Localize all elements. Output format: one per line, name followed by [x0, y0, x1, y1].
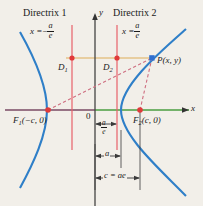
hyperbola-directrix-figure: Directrix 1 x =−ae Directrix 2 x =ae y x… [0, 0, 203, 206]
directrix-2-title: Directrix 2 [113, 8, 157, 18]
point-label-d1: D1 [58, 63, 68, 73]
measure-a-over-e-fraction: ae [101, 119, 107, 135]
point-label-f1: F1(−c, 0) [13, 116, 47, 126]
point-marker-d1 [69, 55, 74, 60]
point-marker-p [149, 55, 154, 60]
measure-a-over-e-denominator: e [101, 128, 107, 136]
directrix-2-fraction: ae [134, 22, 140, 40]
directrix-1-denominator: e [47, 32, 53, 41]
point-marker-d2 [114, 55, 119, 60]
measure-label-a-over-e: ae [101, 119, 107, 135]
measure-label-a: a [104, 149, 110, 158]
y-axis-arrowhead [92, 13, 98, 20]
origin-label: 0 [86, 112, 91, 121]
point-label-d2-subscript: 2 [110, 66, 113, 73]
x-axis-label: x [191, 104, 195, 113]
measure-a-arrow-left [95, 154, 101, 158]
directrix-1-equation: x =−ae [30, 22, 54, 40]
directrix-2-equation: x =ae [122, 22, 140, 40]
measure-c-arrow-left [95, 176, 101, 180]
directrix-1-title: Directrix 1 [23, 8, 67, 18]
point-label-f2-coords: (c, 0) [142, 115, 161, 125]
directrix-2-denominator: e [134, 32, 140, 41]
measure-c-arrow-right [134, 176, 140, 180]
measure-label-c-eq-ae: c = ae [103, 171, 127, 180]
measure-a-arrow-right [115, 154, 121, 158]
point-label-p: P(x, y) [157, 56, 181, 65]
x-axis-arrowhead [182, 107, 189, 113]
point-label-d2: D2 [103, 63, 113, 73]
directrix-2-equation-lhs: x = [122, 26, 134, 36]
measure-a-over-e-arrow-right [111, 122, 117, 126]
point-marker-f1 [45, 107, 51, 113]
directrix-1-fraction: ae [47, 22, 53, 40]
directrix-1-equation-lhs: x = [30, 26, 42, 36]
point-label-d1-subscript: 1 [65, 66, 68, 73]
point-label-f2: F2(c, 0) [133, 116, 161, 126]
point-label-f1-coords: (−c, 0) [22, 115, 47, 125]
point-marker-f2 [137, 107, 143, 113]
y-axis-label: y [99, 8, 103, 17]
